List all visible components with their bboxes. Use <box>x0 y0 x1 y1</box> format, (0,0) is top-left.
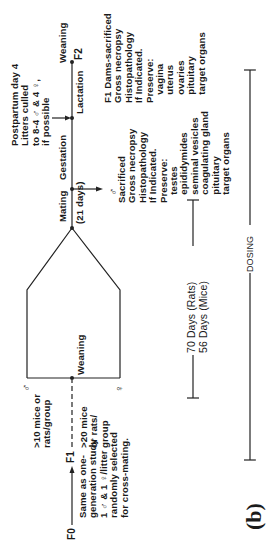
mating-node <box>70 226 74 230</box>
female-symbol: ♀ <box>113 385 125 393</box>
f2-label: F2 <box>74 48 84 60</box>
lactation-label: Lactation <box>75 70 85 114</box>
f1-label: F1 <box>66 451 76 463</box>
mating-duration: (21 days) <box>75 182 85 225</box>
weaning-f1-label: Weaning <box>76 335 86 376</box>
weaning-f2-label: Weaning <box>58 23 68 64</box>
f0-label: F0 <box>67 528 77 540</box>
mating-label: Mating <box>58 190 68 222</box>
male-group-size: >10 mice or rats/group <box>32 394 53 448</box>
gestation-label: Gestation <box>58 135 68 180</box>
female-group-size: >20 mice or rats/ group <box>79 406 110 448</box>
postpartum-note: Postpartum day 4 Litters culled to 8-4 ♂… <box>10 64 52 146</box>
dam-sacrifice-text: F1 Dams-sacrificed Gross necropsy Histop… <box>103 13 207 103</box>
premating-duration: 70 Days (Rats) 56 Days (Mice) <box>185 281 209 353</box>
f2-weaning-node <box>70 60 74 64</box>
lactation-node <box>70 116 74 120</box>
f0-arrowhead <box>70 466 75 473</box>
male-symbol: ♂ <box>20 384 32 392</box>
male-branch-line <box>27 228 72 378</box>
weaning-node <box>70 376 74 380</box>
panel-label: (b) <box>241 503 267 530</box>
dosing-label: DOSING <box>245 236 255 272</box>
male-sacrifice-text: Sacrificed Gross necropsy Histopathology… <box>117 111 231 203</box>
